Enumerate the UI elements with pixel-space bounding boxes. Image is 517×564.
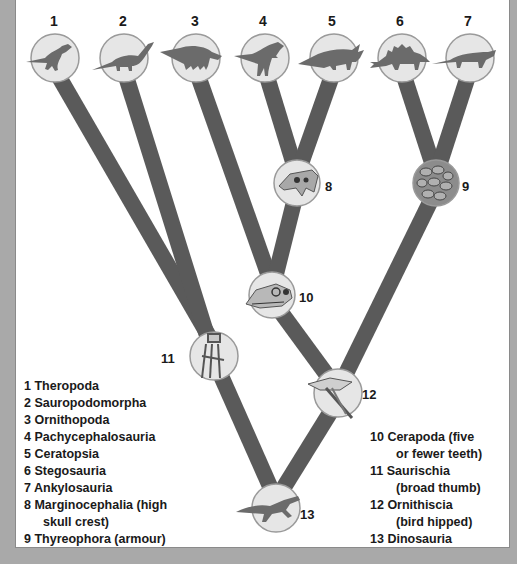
legend-right: 10 Cerapoda (five or fewer teeth) 11 Sau… — [370, 429, 482, 548]
legend-item-10-cont: or fewer teeth) — [370, 446, 482, 463]
legend-item-5: 5 Ceratopsia — [24, 446, 167, 463]
label-8: 8 — [325, 179, 332, 194]
legend-item-11: 11 Saurischia — [370, 463, 482, 480]
legend-item-3: 3 Ornithopoda — [24, 412, 167, 429]
label-6: 6 — [396, 13, 404, 29]
legend-item-7: 7 Ankylosauria — [24, 480, 167, 497]
branch-4-8 — [265, 70, 297, 175]
legend-item-8: 8 Marginocephalia (high — [24, 497, 167, 514]
legend-item-2: 2 Sauropodomorpha — [24, 395, 167, 412]
branch-9-12 — [338, 190, 436, 390]
label-13: 13 — [300, 507, 314, 522]
label-11: 11 — [161, 351, 175, 366]
label-2: 2 — [119, 13, 127, 29]
legend-left: 1 Theropoda 2 Sauropodomorpha 3 Ornithop… — [24, 378, 167, 548]
branch-3-10 — [196, 70, 272, 285]
branch-7-9 — [436, 70, 470, 175]
label-1: 1 — [50, 13, 58, 29]
legend-item-8-cont: skull crest) — [24, 514, 167, 531]
legend-item-1: 1 Theropoda — [24, 378, 167, 395]
label-3: 3 — [191, 13, 199, 29]
legend-item-10: 10 Cerapoda (five — [370, 429, 482, 446]
label-7: 7 — [464, 13, 472, 29]
label-5: 5 — [328, 13, 336, 29]
node-12-circle — [314, 369, 362, 417]
branch-11-13 — [214, 360, 276, 500]
label-10: 10 — [299, 290, 313, 305]
branch-5-8 — [297, 70, 334, 175]
label-4: 4 — [259, 13, 267, 29]
branch-6-9 — [402, 70, 436, 175]
legend-item-13: 13 Dinosauria — [370, 531, 482, 548]
label-9: 9 — [462, 179, 469, 194]
legend-item-4: 4 Pachycephalosauria — [24, 429, 167, 446]
legend-item-11-cont: (broad thumb) — [370, 480, 482, 497]
label-12: 12 — [362, 387, 376, 402]
legend-item-6: 6 Stegosauria — [24, 463, 167, 480]
legend-item-12: 12 Ornithiscia — [370, 497, 482, 514]
legend-item-9: 9 Thyreophora (armour) — [24, 531, 167, 548]
legend-item-12-cont: (bird hipped) — [370, 514, 482, 531]
